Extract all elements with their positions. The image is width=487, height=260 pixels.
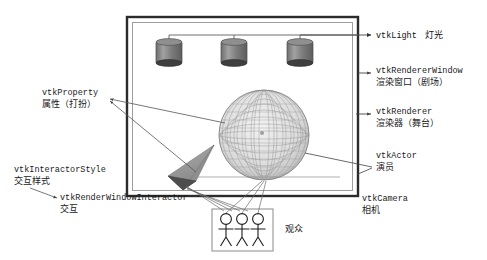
label-audience: 观众 bbox=[285, 224, 303, 235]
lamp-icon bbox=[287, 39, 313, 67]
stick-figure bbox=[235, 214, 250, 246]
label-vtkproperty: vtkProperty 属性（打扮） bbox=[42, 88, 98, 110]
lamp-icon bbox=[221, 39, 247, 67]
leader-line-actor bbox=[305, 153, 372, 174]
label-vtklight: vtkLight 灯光 bbox=[376, 27, 443, 42]
stick-figure bbox=[219, 214, 234, 246]
label-vtkactor: vtkActor 演员 bbox=[376, 151, 417, 173]
audience-group bbox=[212, 209, 273, 251]
stick-figure bbox=[251, 214, 266, 246]
stage-lights bbox=[156, 35, 358, 66]
label-vtkcamera: vtkCamera 相机 bbox=[362, 194, 408, 216]
label-vtkinteractorstyle: vtkInteractorStyle 交互样式 bbox=[14, 165, 106, 187]
label-vtkrendererwindow: vtkRendererWindow 渲染窗口（剧场） bbox=[376, 66, 463, 88]
label-vtkrenderer: vtkRenderer 渲染器（舞台） bbox=[376, 107, 439, 129]
sight-lines-camera bbox=[186, 186, 248, 211]
actor-sphere bbox=[219, 90, 309, 180]
leader-line-interactor bbox=[30, 188, 57, 198]
label-vtkrenderwindowinteractor: vtkRenderWindowInteractor 交互 bbox=[60, 193, 188, 215]
lamp-icon bbox=[156, 39, 182, 67]
diagram-canvas: vtkLight 灯光 vtkRendererWindow 渲染窗口（剧场） v… bbox=[0, 0, 487, 260]
